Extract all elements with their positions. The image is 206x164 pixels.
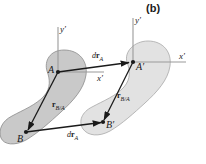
axis-label-y-right: y′ [135, 16, 141, 25]
axis-label-y-left: y′ [60, 25, 66, 34]
figure-container: (b) y′ y′ x′ x′ A A′ B B′ drA drA rB/A r… [0, 0, 206, 164]
point-marker-b-prime [101, 120, 105, 124]
axis-label-x-left: x′ [97, 74, 103, 83]
vector-label-r-ba-right: rB/A [117, 92, 130, 102]
panel-label: (b) [146, 3, 160, 14]
point-label-a-prime: A′ [136, 62, 144, 72]
axis-label-x-right: x′ [179, 52, 185, 61]
point-label-a: A [48, 65, 54, 75]
vector-label-dr-a-bottom: drA [67, 131, 78, 141]
diagram-canvas [0, 0, 206, 164]
r-ba-right-sub: B/A [121, 96, 130, 102]
point-marker-a-prime [131, 60, 135, 64]
dr-a-top-sub: A [100, 56, 104, 62]
r-ba-left-sub: B/A [56, 105, 65, 111]
vector-label-dr-a-top: drA [92, 52, 103, 62]
point-label-b: B [17, 134, 23, 144]
dr-a-bottom-sub: A [75, 135, 79, 141]
point-marker-a [56, 70, 60, 74]
vector-label-r-ba-left: rB/A [52, 101, 65, 111]
point-label-b-prime: B′ [106, 120, 114, 130]
point-marker-b [24, 130, 28, 134]
